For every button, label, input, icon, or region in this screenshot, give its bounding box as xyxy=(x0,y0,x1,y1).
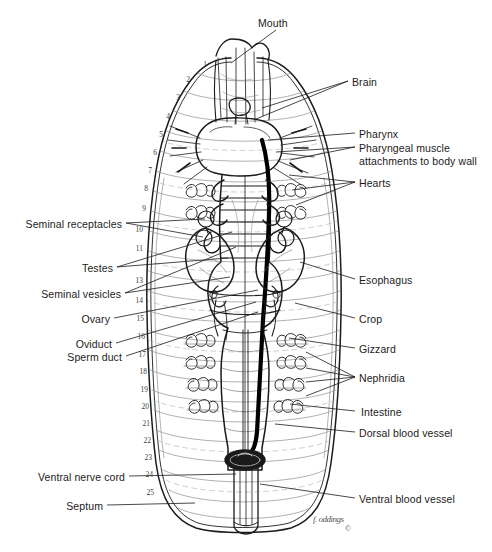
leader-line xyxy=(306,352,355,377)
segment-number: 9 xyxy=(132,205,146,213)
copyright-icon: © xyxy=(345,524,351,533)
segment-number: 19 xyxy=(134,386,148,394)
leader-line xyxy=(306,368,355,377)
anatomy-label: Sperm duct xyxy=(67,351,122,364)
segment-number: 22 xyxy=(137,437,151,445)
segment-number: 17 xyxy=(132,351,146,359)
segment-number: 16 xyxy=(131,333,145,341)
leader-line xyxy=(262,81,348,108)
segment-number: 13 xyxy=(129,277,143,285)
anatomy-label: Gizzard xyxy=(359,343,396,356)
anatomy-label: Ovary xyxy=(81,313,110,326)
leader-line xyxy=(126,219,205,223)
anatomy-label: Crop xyxy=(359,313,382,326)
anatomy-label: Ventral nerve cord xyxy=(38,471,125,484)
leader-lines xyxy=(107,30,355,505)
segment-number: 23 xyxy=(138,454,152,462)
anatomy-line-drawing xyxy=(0,0,492,552)
anatomy-label: Brain xyxy=(352,76,377,89)
segment-number: 18 xyxy=(133,368,147,376)
segment-number: 7 xyxy=(138,167,152,175)
anatomy-label: Dorsal blood vessel xyxy=(359,427,453,440)
anatomy-label: Seminal vesicles xyxy=(41,288,121,301)
anatomy-label: Esophagus xyxy=(359,274,412,287)
segment-number: 2 xyxy=(176,76,190,84)
leader-line xyxy=(260,484,355,498)
segment-number: 1 xyxy=(193,61,207,69)
segment-number: 15 xyxy=(130,315,144,323)
segment-number: 11 xyxy=(129,245,143,253)
leader-line xyxy=(125,247,236,293)
anatomy-label: Septum xyxy=(66,500,103,513)
anatomy-label: Seminal receptacles xyxy=(26,218,122,231)
anatomy-label: Mouth xyxy=(258,17,288,30)
segment-number: 10 xyxy=(129,226,143,234)
leader-line xyxy=(107,503,195,505)
anatomy-label: Ventral blood vessel xyxy=(359,493,455,506)
anatomy-label: Nephridia xyxy=(359,372,405,385)
segment-number: 14 xyxy=(129,297,143,305)
segment-number: 24 xyxy=(139,471,153,479)
anatomy-label-line2: attachments to body wall xyxy=(359,155,477,168)
anatomy-label: Pharyngeal muscleattachments to body wal… xyxy=(359,142,477,167)
leader-line xyxy=(268,133,355,140)
segment-number: 4 xyxy=(156,113,170,121)
segment-number: 21 xyxy=(136,420,150,428)
segment-number: 6 xyxy=(143,149,157,157)
anatomy-label: Testes xyxy=(82,262,113,275)
segment-number: 5 xyxy=(149,131,163,139)
anatomy-label: Pharynx xyxy=(359,128,398,141)
segment-number: 3 xyxy=(166,94,180,102)
artist-signature: f. oddings xyxy=(313,514,344,524)
leader-line xyxy=(117,258,228,267)
anatomy-label: Hearts xyxy=(359,177,391,190)
earthworm-anatomy-figure: Mouth BrainPharynxPharyngeal muscleattac… xyxy=(0,0,492,552)
segment-number: 25 xyxy=(140,489,154,497)
leader-line xyxy=(275,424,355,432)
segment-number: 8 xyxy=(134,185,148,193)
anatomy-label: Intestine xyxy=(361,406,402,419)
anatomy-label: Oviduct xyxy=(76,338,112,351)
segment-number: 20 xyxy=(135,403,149,411)
